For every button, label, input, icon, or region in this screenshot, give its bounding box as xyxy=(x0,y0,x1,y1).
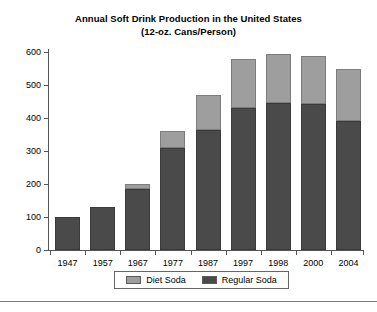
y-tick-label-200: 200 xyxy=(11,180,41,189)
bar-segment-diet-soda-1987 xyxy=(196,95,221,130)
bar-segment-regular-soda-1967 xyxy=(125,189,150,250)
y-axis-line xyxy=(48,49,49,250)
x-tick-2004 xyxy=(331,251,332,255)
bar-group-1998 xyxy=(266,52,291,250)
footer-divider xyxy=(0,301,377,302)
chart-title: Annual Soft Drink Production in the Unit… xyxy=(0,13,377,38)
bar-group-1987 xyxy=(196,52,221,250)
bar-group-1957 xyxy=(90,52,115,250)
bar-segment-diet-soda-2000 xyxy=(301,56,326,104)
bar-group-1967 xyxy=(125,52,150,250)
bar-group-1977 xyxy=(160,52,185,250)
x-tick-1998 xyxy=(261,251,262,255)
x-tick-label-1998: 1998 xyxy=(261,258,296,268)
bar-segment-regular-soda-1997 xyxy=(231,108,256,250)
y-tick-label-400: 400 xyxy=(11,114,41,123)
x-tick-label-1987: 1987 xyxy=(190,258,225,268)
legend-swatch-regular-soda xyxy=(202,276,217,284)
bar-segment-diet-soda-1967 xyxy=(125,184,150,189)
x-tick-label-1967: 1967 xyxy=(120,258,155,268)
bar-segment-regular-soda-1947 xyxy=(55,217,80,250)
bar-group-1997 xyxy=(231,52,256,250)
y-tick-label-100: 100 xyxy=(11,213,41,222)
x-tick-1957 xyxy=(85,251,86,255)
legend-label-regular-soda: Regular Soda xyxy=(222,275,277,285)
x-tick-end xyxy=(363,251,364,255)
x-tick-1967 xyxy=(120,251,121,255)
legend-item-diet-soda: Diet Soda xyxy=(126,275,186,285)
x-tick-label-2004: 2004 xyxy=(331,258,366,268)
x-tick-1977 xyxy=(155,251,156,255)
bar-group-2004 xyxy=(336,52,361,250)
plot-area: 0100200300400500600 19471957196719771987… xyxy=(48,52,364,250)
x-tick-label-1977: 1977 xyxy=(155,258,190,268)
x-axis-line xyxy=(48,250,364,251)
chart-page: Annual Soft Drink Production in the Unit… xyxy=(0,0,377,312)
x-tick-1997 xyxy=(226,251,227,255)
y-tick-0 xyxy=(44,250,48,251)
y-tick-400 xyxy=(44,118,48,119)
legend-label-diet-soda: Diet Soda xyxy=(146,275,186,285)
bar-group-2000 xyxy=(301,52,326,250)
y-tick-label-600: 600 xyxy=(11,48,41,57)
chart-title-line-1: Annual Soft Drink Production in the Unit… xyxy=(0,13,377,26)
y-tick-100 xyxy=(44,217,48,218)
bar-segment-regular-soda-2004 xyxy=(336,121,361,250)
chart-title-line-2: (12-oz. Cans/Person) xyxy=(0,26,377,39)
bar-segment-diet-soda-2004 xyxy=(336,69,361,122)
y-tick-label-500: 500 xyxy=(11,81,41,90)
bar-segment-regular-soda-1987 xyxy=(196,130,221,250)
bar-segment-regular-soda-1957 xyxy=(90,207,115,250)
y-tick-200 xyxy=(44,184,48,185)
x-tick-label-1957: 1957 xyxy=(85,258,120,268)
legend-swatch-diet-soda xyxy=(126,276,141,284)
y-tick-label-0: 0 xyxy=(11,246,41,255)
x-tick-2000 xyxy=(296,251,297,255)
bar-segment-regular-soda-1977 xyxy=(160,148,185,250)
y-tick-label-300: 300 xyxy=(11,147,41,156)
y-tick-600 xyxy=(44,52,48,53)
bar-segment-regular-soda-2000 xyxy=(301,104,326,250)
y-tick-300 xyxy=(44,151,48,152)
x-tick-1947 xyxy=(50,251,51,255)
bar-segment-regular-soda-1998 xyxy=(266,103,291,250)
y-tick-500 xyxy=(44,85,48,86)
legend-item-regular-soda: Regular Soda xyxy=(202,275,277,285)
x-tick-label-1997: 1997 xyxy=(226,258,261,268)
chart-legend: Diet Soda Regular Soda xyxy=(114,271,289,289)
bar-group-1947 xyxy=(55,52,80,250)
bar-segment-diet-soda-1977 xyxy=(160,131,185,148)
x-tick-1987 xyxy=(191,251,192,255)
x-tick-label-2000: 2000 xyxy=(296,258,331,268)
bar-segment-diet-soda-1997 xyxy=(231,59,256,109)
x-tick-label-1947: 1947 xyxy=(50,258,85,268)
bar-segment-diet-soda-1998 xyxy=(266,54,291,104)
